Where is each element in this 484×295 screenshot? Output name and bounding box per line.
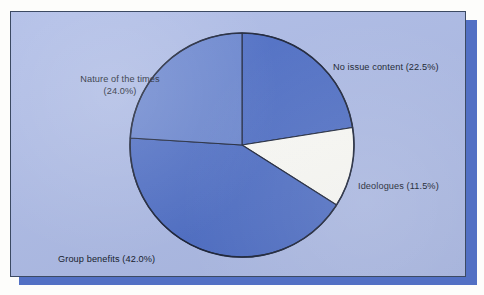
pie-label-no-issue-content: No issue content (22.5%) — [333, 61, 439, 73]
pie-label-nature-line1: Nature of the times — [80, 74, 160, 84]
pie-label-group-benefits: Group benefits (42.0%) — [58, 253, 155, 265]
pie-slice-no-issue-content[interactable]: No issue content (22.5%) — [242, 33, 353, 145]
pie-label-ideologues: Ideologues (11.5%) — [358, 180, 439, 192]
pie-label-nature-of-the-times: Nature of the times (24.0%) — [58, 73, 182, 97]
pie-slice-group: No issue content (22.5%)Ideologues (11.5… — [130, 33, 354, 257]
pie-label-nature-line2: (24.0%) — [58, 85, 182, 97]
page-canvas: No issue content (22.5%)Ideologues (11.5… — [0, 0, 484, 295]
chart-frame: No issue content (22.5%)Ideologues (11.5… — [10, 11, 466, 277]
pie-chart: No issue content (22.5%)Ideologues (11.5… — [11, 12, 464, 275]
